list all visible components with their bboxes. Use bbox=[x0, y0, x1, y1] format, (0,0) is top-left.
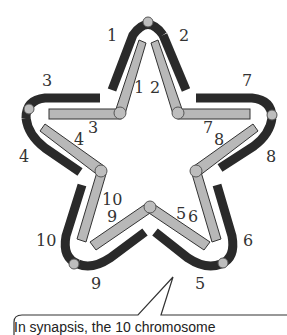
centromere-inner-top-left bbox=[114, 107, 126, 119]
outer-label-2: 2 bbox=[179, 26, 189, 45]
inner-label-3: 3 bbox=[88, 118, 98, 137]
inner-label-9: 9 bbox=[107, 207, 117, 226]
inner-label-6: 6 bbox=[188, 207, 198, 226]
centromere-inner-right bbox=[190, 165, 202, 177]
centromere-left-outer bbox=[24, 104, 34, 114]
outer-label-4: 4 bbox=[19, 147, 29, 166]
synapsis-diagram: 1 2 3 4 5 6 7 8 9 10 1 2 3 4 5 6 7 8 9 1… bbox=[0, 0, 287, 335]
centromere-inner-bottom bbox=[144, 201, 156, 213]
outer-chromosome-10 bbox=[65, 185, 82, 264]
outer-label-7: 7 bbox=[242, 71, 252, 90]
inner-label-4: 4 bbox=[74, 130, 84, 149]
centromere-bottom-right-outer bbox=[218, 258, 228, 268]
outer-label-5: 5 bbox=[195, 274, 205, 293]
star-chromosome-figure: 1 2 3 4 5 6 7 8 9 10 1 2 3 4 5 6 7 8 9 1… bbox=[0, 0, 287, 335]
outer-chromosome-6 bbox=[217, 185, 233, 264]
centromere-right-outer bbox=[267, 110, 277, 120]
inner-chromosome-9 bbox=[90, 203, 153, 250]
inner-chromosome-7 bbox=[178, 109, 250, 119]
outer-label-10: 10 bbox=[36, 231, 56, 250]
inner-label-2: 2 bbox=[150, 78, 160, 97]
outer-label-1: 1 bbox=[107, 26, 117, 45]
centromere-bottom-left-outer bbox=[69, 259, 79, 269]
inner-label-10: 10 bbox=[102, 190, 122, 209]
outer-label-8: 8 bbox=[266, 147, 276, 166]
inner-label-7: 7 bbox=[203, 118, 213, 137]
outer-label-6: 6 bbox=[243, 231, 253, 250]
outer-label-9: 9 bbox=[91, 274, 101, 293]
inner-label-1: 1 bbox=[134, 78, 144, 97]
centromere-top bbox=[143, 17, 153, 27]
inner-chromosome-3 bbox=[49, 109, 121, 119]
centromere-inner-left bbox=[95, 165, 107, 177]
inner-label-5: 5 bbox=[176, 204, 186, 223]
callout-text: In synapsis, the 10 chromosome bbox=[14, 319, 216, 335]
centromere-inner-top-right bbox=[172, 107, 184, 119]
outer-label-3: 3 bbox=[42, 71, 52, 90]
inner-label-8: 8 bbox=[214, 130, 224, 149]
